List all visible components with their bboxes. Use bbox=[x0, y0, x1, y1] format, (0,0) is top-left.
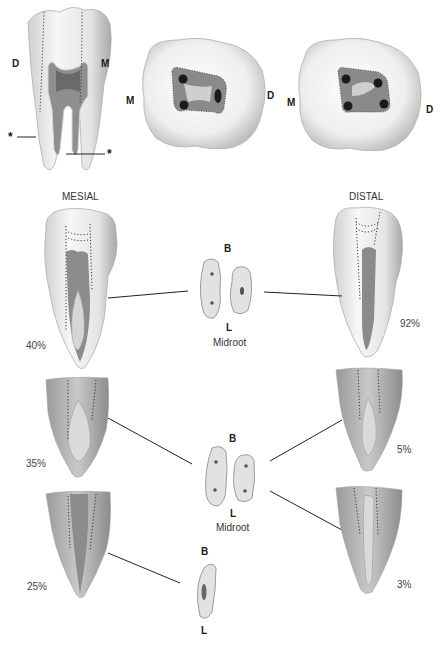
cross-section-row2-buccal: B bbox=[229, 433, 236, 444]
occlusal2-label-m: M bbox=[287, 97, 295, 108]
distal-percent-row3: 3% bbox=[397, 579, 411, 590]
occlusal1-label-d: D bbox=[267, 90, 274, 101]
cross-section-row3-buccal: B bbox=[201, 546, 208, 557]
cross-section-row3-lingual: L bbox=[201, 625, 207, 636]
cross-section-row1-lingual: L bbox=[226, 322, 232, 333]
cross-section-row3 bbox=[108, 553, 216, 618]
occlusal2-label-d: D bbox=[426, 104, 433, 115]
distal-percent-row1: 92% bbox=[400, 318, 420, 329]
occlusal-view-four-canals bbox=[299, 38, 421, 150]
label-distal-d: D bbox=[12, 58, 19, 69]
mesial-root-row2 bbox=[46, 377, 109, 477]
molar-side-view bbox=[17, 7, 111, 170]
star-marker-left-icon: * bbox=[8, 130, 13, 144]
cross-section-row1-buccal: B bbox=[224, 243, 231, 254]
distal-percent-row2: 5% bbox=[397, 444, 411, 455]
cross-section-row1-caption: Midroot bbox=[213, 337, 246, 348]
label-mesial-m: M bbox=[101, 58, 109, 69]
mesial-root-row3 bbox=[46, 491, 111, 597]
cross-section-row2-caption: Midroot bbox=[216, 522, 249, 533]
column-title-mesial: MESIAL bbox=[62, 191, 99, 202]
cross-section-row2-lingual: L bbox=[230, 508, 236, 519]
star-marker-right-icon: * bbox=[107, 147, 112, 161]
cross-section-row2 bbox=[108, 418, 342, 530]
cross-section-row1 bbox=[108, 259, 342, 318]
mesial-percent-row1: 40% bbox=[26, 340, 46, 351]
diagram-canvas bbox=[0, 0, 447, 646]
mesial-percent-row2: 35% bbox=[26, 458, 46, 469]
column-title-distal: DISTAL bbox=[349, 191, 383, 202]
distal-root-row2 bbox=[336, 368, 402, 471]
distal-root-row3 bbox=[336, 486, 402, 593]
occlusal-view-three-canals bbox=[143, 38, 265, 148]
occlusal1-label-m: M bbox=[126, 95, 134, 106]
mesial-percent-row3: 25% bbox=[27, 581, 47, 592]
distal-tooth-row1 bbox=[333, 207, 402, 357]
mesial-tooth-row1 bbox=[45, 208, 117, 368]
